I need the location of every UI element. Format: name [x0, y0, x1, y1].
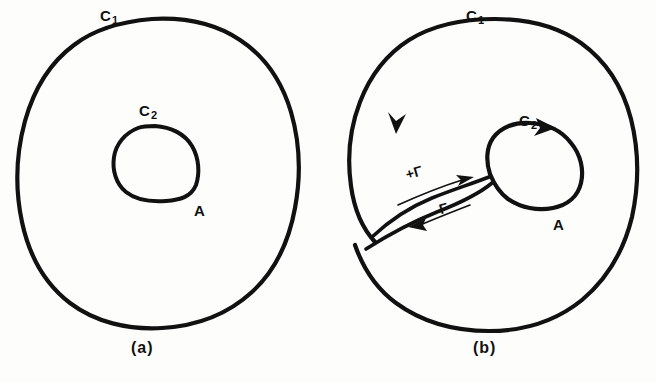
cut-upper-edge	[372, 177, 489, 237]
figure-canvas	[0, 0, 656, 382]
direction-arrow-gamma-positive	[398, 180, 462, 205]
outer-curve-c1-panel-b	[349, 19, 637, 331]
curve-label-c1-panel-b-letter: C	[466, 7, 477, 24]
curve-label-c1-panel-a-subscript: 1	[111, 14, 118, 26]
curve-label-c1-panel-a-letter: C	[100, 7, 111, 24]
curve-label-c2-panel-b: C2	[519, 113, 537, 131]
curve-label-c2-panel-a-letter: C	[139, 102, 150, 119]
curve-label-c1-panel-a: C1	[100, 8, 118, 26]
arrowhead-c1-panel-b	[388, 112, 406, 134]
inner-curve-c2-panel-a	[114, 126, 199, 201]
figure-container: C1 C2 A (a) C1 C2 A +Γ -Γ (b)	[0, 0, 656, 382]
curve-label-c2-panel-a: C2	[139, 103, 157, 121]
curve-label-c2-panel-a-subscript: 2	[150, 109, 157, 121]
curve-label-c1-panel-b-subscript: 1	[477, 14, 484, 26]
outer-curve-c1-panel-a	[17, 19, 298, 329]
cut-label-gamma-positive: +Γ	[404, 163, 424, 181]
inner-curve-c2-panel-b	[487, 123, 582, 209]
cut-lower-edge	[366, 183, 492, 249]
curve-label-c2-panel-b-letter: C	[519, 112, 530, 129]
curve-label-c2-panel-b-subscript: 2	[530, 119, 537, 131]
curve-label-c1-panel-b: C1	[466, 8, 484, 26]
panel-caption-b: (b)	[473, 340, 496, 356]
panel-caption-a: (a)	[131, 340, 154, 356]
region-label-a-panel-a: A	[194, 203, 205, 218]
region-label-a-panel-b: A	[553, 217, 564, 232]
